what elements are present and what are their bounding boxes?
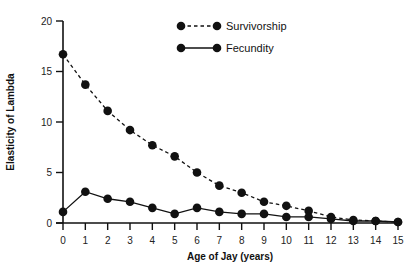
data-point: [394, 218, 403, 227]
y-tick-label: 15: [41, 66, 53, 77]
x-tick-label: 10: [281, 235, 293, 246]
legend-marker: [213, 44, 222, 53]
data-point: [193, 204, 202, 213]
x-tick-label: 4: [150, 235, 156, 246]
legend-marker: [177, 44, 186, 53]
legend-item-fecundity: Fecundity: [177, 42, 274, 54]
legend-label: Fecundity: [226, 42, 274, 54]
series-fecundity: [59, 187, 403, 226]
x-tick-label: 12: [325, 235, 337, 246]
x-tick-label: 9: [261, 235, 267, 246]
y-tick-label: 5: [46, 167, 52, 178]
data-point: [215, 181, 224, 190]
x-tick-label: 2: [105, 235, 111, 246]
data-point: [327, 215, 336, 224]
data-point: [59, 208, 68, 217]
data-point: [304, 213, 313, 222]
data-point: [260, 210, 269, 219]
x-tick-label: 5: [172, 235, 178, 246]
data-point: [170, 152, 179, 161]
data-point: [81, 187, 90, 196]
data-point: [237, 210, 246, 219]
y-tick-label: 10: [41, 117, 53, 128]
series-layer: [59, 50, 403, 226]
legend: SurvivorshipFecundity: [177, 20, 287, 54]
data-point: [349, 217, 358, 226]
x-tick-label: 6: [194, 235, 200, 246]
data-point: [148, 141, 157, 150]
x-tick-label: 11: [303, 235, 314, 246]
x-tick-label: 15: [392, 235, 404, 246]
data-point: [81, 80, 90, 89]
legend-marker: [213, 22, 222, 31]
x-tick-label: 0: [60, 235, 66, 246]
data-point: [103, 194, 112, 203]
data-point: [126, 126, 135, 135]
legend-marker: [177, 22, 186, 31]
x-tick-label: 14: [370, 235, 382, 246]
y-axis-title: Elasticity of Lambda: [5, 73, 16, 171]
data-point: [237, 188, 246, 197]
elasticity-chart: 051015200123456789101112131415 Survivors…: [0, 0, 420, 275]
data-point: [282, 213, 291, 222]
data-point: [282, 202, 291, 211]
legend-item-survivorship: Survivorship: [177, 20, 287, 32]
data-point: [193, 168, 202, 177]
x-tick-label: 8: [239, 235, 245, 246]
x-tick-label: 13: [348, 235, 360, 246]
x-axis-title: Age of Jay (years): [187, 251, 273, 262]
legend-label: Survivorship: [226, 20, 287, 32]
data-point: [126, 197, 135, 206]
y-tick-label: 20: [41, 16, 53, 27]
data-point: [59, 50, 68, 59]
data-point: [103, 107, 112, 116]
data-point: [148, 204, 157, 213]
data-point: [215, 208, 224, 217]
data-point: [170, 210, 179, 219]
series-line: [63, 192, 398, 222]
y-tick-label: 0: [46, 218, 52, 229]
x-tick-label: 3: [127, 235, 133, 246]
data-point: [371, 217, 380, 226]
x-tick-label: 7: [217, 235, 223, 246]
series-line: [63, 54, 398, 222]
data-point: [260, 197, 269, 206]
x-tick-label: 1: [83, 235, 89, 246]
